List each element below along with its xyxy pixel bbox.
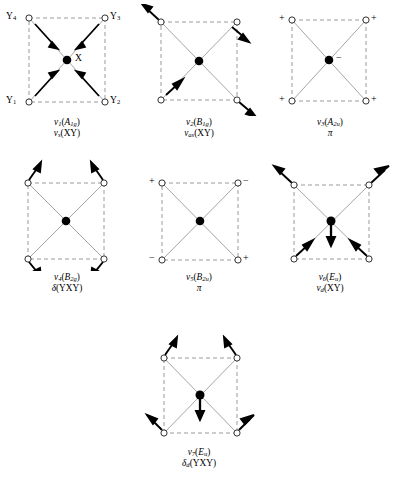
- atom-x-center: [196, 391, 205, 400]
- atom-label-y1: Y1: [6, 95, 16, 105]
- mode-caption-nu3: ν3(A2u) π: [265, 117, 395, 138]
- phase-sign-bottom-right: +: [371, 93, 377, 104]
- mode-panel-nu7: ν7(Eu) δd(YXY): [134, 334, 264, 469]
- atom-label-x: X: [75, 53, 82, 63]
- atom-x-center: [196, 217, 205, 226]
- atom-y1: [26, 99, 32, 105]
- atom-x-center: [325, 56, 334, 65]
- atom-y3: [102, 15, 108, 21]
- mode-diagram-nu3: + + + + −: [265, 4, 395, 116]
- atom-label-y2: Y2: [110, 95, 120, 105]
- mode-symmetry-label-nu1: ν1(A1g): [2, 117, 132, 128]
- phase-sign-top-right: −: [243, 175, 249, 186]
- mode-symmetry-label-nu3: ν3(A2u): [265, 117, 395, 128]
- atom-y2: [102, 99, 108, 105]
- mode-panel-nu6: ν6(Eu) νd(XY): [265, 159, 395, 294]
- atom-label-y4: Y4: [6, 11, 16, 21]
- mode-description-label-nu5: π: [134, 283, 264, 293]
- mode-caption-nu4: ν4(B2g) δ(YXY): [2, 272, 132, 293]
- mode-diagram-nu7: [134, 334, 264, 446]
- mode-diagram-nu1: Y4 Y3 Y1 Y2 X: [2, 4, 132, 116]
- atom-x-center: [327, 217, 336, 226]
- figure-footer-caption: [0, 478, 395, 487]
- phase-sign-bottom-left: −: [149, 252, 155, 263]
- displacement-arrows: [29, 162, 103, 271]
- phase-sign-bottom-right: +: [243, 252, 249, 263]
- mode-description-label-nu7: δd(YXY): [134, 458, 264, 469]
- phase-sign-top-left: +: [149, 175, 155, 186]
- figure-sheet: Y4 Y3 Y1 Y2 X ν1(A1g) νs(XY): [0, 0, 395, 487]
- mode-description-label-nu4: δ(YXY): [2, 283, 132, 293]
- mode-diagram-nu6: [265, 159, 395, 271]
- mode-diagram-nu5: + − − +: [134, 159, 264, 271]
- mode-panel-nu1: Y4 Y3 Y1 Y2 X ν1(A1g) νs(XY): [2, 4, 132, 139]
- mode-description-label-nu2: νas(XY): [134, 128, 264, 139]
- phase-sign-center: −: [336, 52, 342, 63]
- mode-symmetry-label-nu5: ν5(B2u): [134, 272, 264, 283]
- mode-panel-nu4: ν4(B2g) δ(YXY): [2, 159, 132, 293]
- mode-symmetry-label-nu4: ν4(B2g): [2, 272, 132, 283]
- mode-diagram-nu4: [2, 159, 132, 271]
- phase-sign-bottom-left: +: [279, 93, 285, 104]
- mode-symmetry-label-nu6: ν6(Eu): [265, 272, 395, 283]
- displacement-arrows: [274, 166, 389, 256]
- mode-panel-nu2: ν2(B1g) νas(XY): [134, 4, 264, 139]
- atom-label-y3: Y3: [110, 11, 120, 21]
- phase-sign-top-left: +: [279, 12, 285, 23]
- mode-description-label-nu6: νd(XY): [265, 283, 395, 294]
- mode-diagram-nu2: [134, 4, 264, 116]
- mode-caption-nu7: ν7(Eu) δd(YXY): [134, 447, 264, 469]
- mode-symmetry-label-nu7: ν7(Eu): [134, 447, 264, 458]
- mode-caption-nu5: ν5(B2u) π: [134, 272, 264, 293]
- mode-description-label-nu1: νs(XY): [2, 128, 132, 139]
- mode-panel-nu5: + − − + ν5(B2u) π: [134, 159, 264, 293]
- mode-caption-nu6: ν6(Eu) νd(XY): [265, 272, 395, 294]
- mode-description-label-nu3: π: [265, 128, 395, 138]
- atom-x-center: [62, 217, 71, 226]
- displacement-arrows: [147, 337, 254, 430]
- mode-caption-nu1: ν1(A1g) νs(XY): [2, 117, 132, 139]
- mode-panel-nu3: + + + + − ν3(A2u) π: [265, 4, 395, 138]
- atom-x-center: [195, 57, 204, 66]
- mode-symmetry-label-nu2: ν2(B1g): [134, 117, 264, 128]
- mode-caption-nu2: ν2(B1g) νas(XY): [134, 117, 264, 139]
- phase-sign-top-right: +: [371, 12, 377, 23]
- atom-x-center: [63, 56, 72, 65]
- atom-y4: [26, 15, 32, 21]
